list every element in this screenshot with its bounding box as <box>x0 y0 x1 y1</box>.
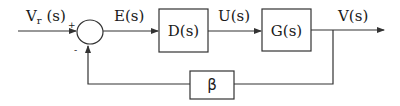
plus-sign: + <box>68 20 76 30</box>
control-label: U(s) <box>218 7 250 25</box>
plant-label: G(s) <box>271 22 302 40</box>
minus-sign: - <box>74 45 77 55</box>
controller-label: D(s) <box>168 22 199 40</box>
block-diagram: Vr (s) + - E(s) D(s) U(s) G(s) V(s) β <box>0 0 400 106</box>
input-label: Vr (s) <box>25 7 66 26</box>
feedback-label: β <box>207 76 217 94</box>
summing-junction <box>77 20 103 44</box>
output-label: V(s) <box>337 7 368 25</box>
error-label: E(s) <box>114 7 144 25</box>
diagram-svg: Vr (s) + - E(s) D(s) U(s) G(s) V(s) β <box>0 0 400 106</box>
